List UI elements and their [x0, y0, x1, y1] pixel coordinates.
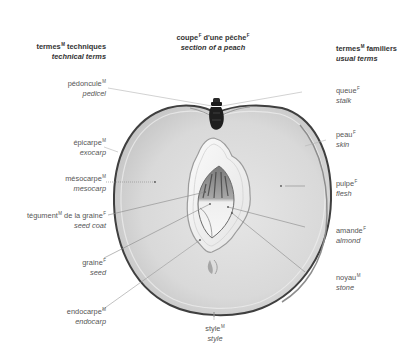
diagram-title: coupeF d'une pêcheF section of a peach: [158, 31, 268, 52]
label-seed: graineF seed: [82, 256, 106, 277]
header-usual-terms: termesM familiers usual terms: [336, 42, 397, 63]
label-almond: amandeF almond: [336, 224, 366, 245]
title-fr: coupe: [176, 33, 198, 42]
label-exocarp: épicarpeM exocarp: [73, 136, 106, 157]
label-style: styleM style: [190, 322, 240, 343]
peach-section-diagram: coupeF d'une pêcheF section of a peach t…: [0, 0, 414, 363]
label-seed-coat: tégumentM de la graineF seed coat: [27, 209, 106, 230]
label-endocarp: endocarpeM endocarp: [67, 305, 106, 326]
header-technical-terms: termesM techniques technical terms: [36, 40, 106, 61]
label-flesh: pulpeF flesh: [336, 177, 357, 198]
title-en: section of a peach: [158, 43, 268, 53]
label-pedicel: pédonculeM pedicel: [68, 77, 106, 98]
label-mesocarp: mésocarpeM mesocarp: [65, 172, 106, 193]
label-skin: peauF skin: [336, 128, 356, 149]
stalk: [209, 98, 224, 130]
label-stalk: queueF stalk: [336, 84, 360, 105]
label-stone: noyauM stone: [336, 271, 360, 292]
